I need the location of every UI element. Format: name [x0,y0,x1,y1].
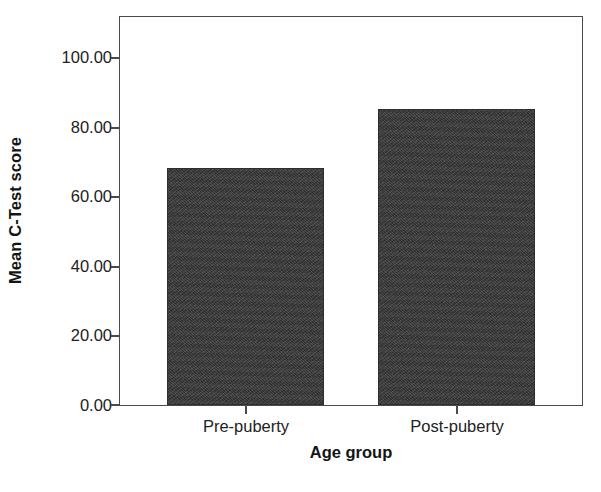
y-tick-label: 20.00 [34,327,112,344]
y-tick-label: 80.00 [34,119,112,136]
plot-area [119,16,583,406]
y-axis-tick-labels: 100.00 80.00 60.00 40.00 20.00 0.00 [28,0,112,492]
bar-post-puberty [378,109,535,405]
y-tick-label: 100.00 [34,49,112,66]
x-tick-mark [456,405,458,414]
x-axis-title: Age group [119,443,583,462]
x-tick-mark [245,405,247,414]
y-tick-label: 40.00 [34,258,112,275]
bar-chart: Mean C-Test score 100.00 80.00 60.00 40.… [0,0,601,492]
y-tick-label: 0.00 [34,397,112,414]
bar-pre-puberty [167,168,324,405]
y-axis-title-text: Mean C-Test score [7,136,26,283]
y-tick-label: 60.00 [34,188,112,205]
x-tick-label-pre-puberty: Pre-puberty [141,417,351,435]
x-tick-label-post-puberty: Post-puberty [352,417,562,435]
